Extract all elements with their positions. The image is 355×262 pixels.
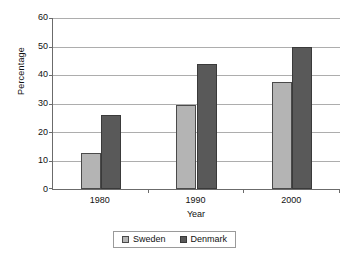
bar-denmark-1980: [101, 115, 121, 189]
bar-denmark-2000: [292, 47, 312, 190]
chart-legend: Sweden Denmark: [113, 231, 236, 248]
y-axis-tick: [49, 161, 53, 162]
y-tick-label: 50: [22, 41, 48, 52]
gridline: [53, 18, 340, 19]
legend-swatch-icon: [122, 236, 129, 243]
x-axis-title: Year: [52, 209, 340, 219]
plot-area: [52, 18, 340, 190]
x-tick-label: 1980: [90, 194, 110, 206]
bar-denmark-1990: [197, 64, 217, 189]
y-tick-label: 60: [22, 12, 48, 23]
y-tick-label: 10: [22, 155, 48, 166]
y-tick-label: 20: [22, 127, 48, 138]
y-axis-tick: [49, 188, 53, 189]
legend-entry-sweden: Sweden: [122, 234, 166, 245]
legend-entry-denmark: Denmark: [180, 234, 228, 245]
x-tick-label: 2000: [281, 194, 301, 206]
bar-sweden-2000: [272, 82, 292, 189]
legend-swatch-icon: [180, 236, 187, 243]
bar-sweden-1990: [176, 105, 196, 189]
x-axis-tick: [148, 189, 149, 193]
bar-chart-figure: Percentage 60 50 40 30 20 10 0 198019902…: [0, 0, 355, 262]
x-tick-label: 1990: [185, 194, 205, 206]
x-axis-tick: [339, 189, 340, 193]
y-axis-tick-labels: 60 50 40 30 20 10 0: [22, 12, 48, 190]
y-tick-label: 40: [22, 69, 48, 80]
x-axis-tick: [243, 189, 244, 193]
y-axis-tick: [49, 104, 53, 105]
legend-label: Sweden: [133, 234, 166, 245]
bar-sweden-1980: [81, 153, 101, 189]
legend-label: Denmark: [191, 234, 228, 245]
y-tick-label: 0: [22, 184, 48, 195]
y-axis-tick: [49, 75, 53, 76]
y-axis-tick: [49, 132, 53, 133]
x-axis-tick-labels: 198019902000: [52, 194, 340, 208]
y-axis-tick: [49, 18, 53, 19]
y-tick-label: 30: [22, 98, 48, 109]
y-axis-tick: [49, 47, 53, 48]
